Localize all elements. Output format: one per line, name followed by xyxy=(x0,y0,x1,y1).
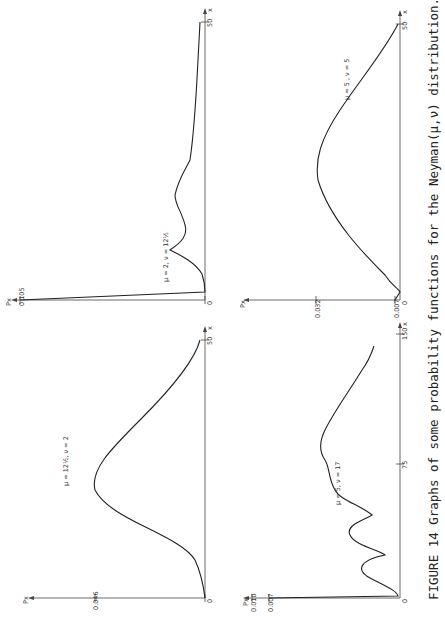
xtick-75: 75 xyxy=(401,461,409,469)
x-axis-label: x xyxy=(206,8,214,12)
ytick-0007: 0.007 xyxy=(393,299,401,318)
panel-label: μ = 12½, ν = 2 xyxy=(62,436,70,486)
panel-mu2-nu12: Px 0.105 0 50 x μ = 2, ν = 12½ xyxy=(5,8,214,306)
x-axis-label: x xyxy=(401,10,409,14)
curve-mu2-nu12 xyxy=(20,22,205,300)
xtick-0: 0 xyxy=(401,301,409,305)
px-axis-label: Px xyxy=(22,596,30,604)
panel-label: μ = 5 , ν = 5 xyxy=(343,59,351,100)
ytick-0010: 0.010 xyxy=(250,593,258,612)
curve-mu5-nu5 xyxy=(317,24,400,300)
x-axis-label: x xyxy=(401,322,409,326)
panel-mu5-nu17: Px 0.010 0.007 0 75 150 x μ = 5, ν = 17 xyxy=(242,322,409,612)
panel-label: μ = 5, ν = 17 xyxy=(334,462,342,505)
xtick-150: 150 xyxy=(401,328,409,340)
curve-mu12-nu2 xyxy=(94,340,205,598)
figure-caption: FIGURE 14 Graphs of some probability fun… xyxy=(426,0,441,600)
xtick-50: 50 xyxy=(206,337,214,345)
px-axis-label: Px xyxy=(239,300,247,308)
xtick-0: 0 xyxy=(206,599,214,603)
x-axis-label: x xyxy=(206,326,214,330)
xtick-0: 0 xyxy=(401,599,409,603)
figure-svg: Px 0.105 0 50 x μ = 2, ν = 12½ Px 0.046 … xyxy=(0,0,445,618)
px-axis-label: Px xyxy=(242,598,250,606)
xtick-50: 50 xyxy=(206,19,214,27)
panel-mu5-nu5: Px 0.032 0.007 0 50 x μ = 5 , ν = 5 xyxy=(239,10,409,318)
xtick-50: 50 xyxy=(401,22,409,30)
panel-label: μ = 2, ν = 12½ xyxy=(162,232,170,282)
panel-mu12-nu2: Px 0.046 0 50 x μ = 12½, ν = 2 xyxy=(22,326,214,610)
ytick-0007: 0.007 xyxy=(267,593,275,612)
ytick-0105: 0.105 xyxy=(18,287,26,306)
ytick-0046: 0.046 xyxy=(92,591,100,610)
ytick-0032: 0.032 xyxy=(314,299,322,318)
figure-page: Px 0.105 0 50 x μ = 2, ν = 12½ Px 0.046 … xyxy=(0,0,445,618)
px-axis-label: Px xyxy=(5,298,13,306)
xtick-0: 0 xyxy=(206,301,214,305)
